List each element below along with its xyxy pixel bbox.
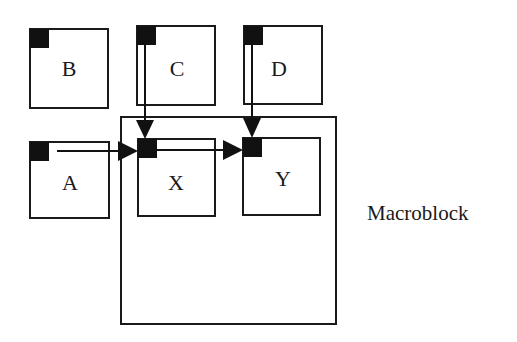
block-d: D bbox=[244, 26, 322, 104]
block-label: X bbox=[168, 170, 184, 195]
block-label: Y bbox=[275, 166, 291, 191]
block-label: C bbox=[170, 56, 185, 81]
arrowhead-down-icon bbox=[243, 118, 261, 138]
arrowhead-down-icon bbox=[136, 120, 154, 139]
block-y: Y bbox=[243, 138, 320, 215]
block-b: B bbox=[30, 29, 108, 108]
corner-pixel-marker bbox=[243, 138, 262, 157]
block-label: B bbox=[62, 56, 77, 81]
corner-pixel-marker bbox=[138, 139, 157, 158]
corner-pixel-marker bbox=[137, 26, 156, 45]
block-c: C bbox=[137, 26, 215, 105]
block-a: A bbox=[30, 142, 109, 218]
arrowhead-right-icon bbox=[223, 140, 243, 160]
corner-pixel-marker bbox=[30, 29, 49, 48]
macroblock-diagram: B C D A X Y bbox=[0, 0, 517, 342]
corner-pixel-marker bbox=[30, 142, 49, 161]
corner-pixel-marker bbox=[244, 26, 263, 45]
block-label: D bbox=[271, 56, 287, 81]
arrowhead-right-icon bbox=[118, 141, 138, 161]
macroblock-caption: Macroblock bbox=[367, 201, 469, 225]
block-label: A bbox=[62, 170, 78, 195]
